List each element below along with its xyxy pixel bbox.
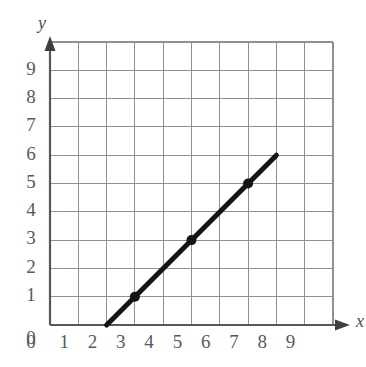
x-axis-label: x <box>355 311 364 331</box>
graph-figure: 0 1 2 3 4 5 6 7 8 9 0 1 2 3 4 5 6 7 8 9 … <box>0 0 366 367</box>
y-tick-label: 4 <box>26 199 36 220</box>
y-tick-label: 6 <box>26 143 36 164</box>
data-point <box>130 292 140 302</box>
y-tick-label: 1 <box>26 284 36 305</box>
x-tick-label: 3 <box>116 331 126 352</box>
data-point <box>187 235 197 245</box>
y-tick-label: 7 <box>26 114 36 135</box>
coordinate-plane: 0 1 2 3 4 5 6 7 8 9 0 1 2 3 4 5 6 7 8 9 … <box>0 0 366 367</box>
y-tick-label: 8 <box>26 86 36 107</box>
x-tick-label: 6 <box>201 331 211 352</box>
y-tick-label: 2 <box>26 256 36 277</box>
y-tick-label: 5 <box>26 171 36 192</box>
x-tick-label: 5 <box>173 331 183 352</box>
y-tick-label: 9 <box>26 58 36 79</box>
y-tick-label: 0 <box>26 327 36 348</box>
x-tick-label: 4 <box>144 331 154 352</box>
x-tick-label: 8 <box>258 331 268 352</box>
y-tick-label: 3 <box>26 227 36 248</box>
data-point <box>243 179 253 189</box>
y-axis-tick-labels: 0 1 2 3 4 5 6 7 8 9 <box>26 58 36 349</box>
y-axis-label: y <box>36 13 46 33</box>
x-tick-label: 7 <box>229 331 239 352</box>
x-tick-label: 9 <box>286 331 296 352</box>
x-tick-label: 2 <box>88 331 98 352</box>
x-tick-label: 1 <box>59 331 69 352</box>
